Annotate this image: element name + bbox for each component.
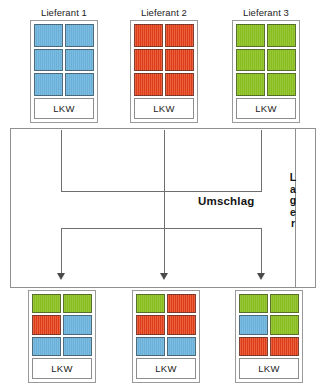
cargo-cell xyxy=(136,315,165,334)
outbound-arrow-2 xyxy=(160,273,168,280)
cargo-cell xyxy=(165,73,194,96)
outbound-line-3 xyxy=(261,228,262,274)
cargo-cell xyxy=(236,73,265,96)
cargo-cell xyxy=(270,337,299,356)
hub-title: Umschlag xyxy=(198,195,255,207)
cargo-cell xyxy=(167,337,196,356)
vehicle-label: LKW xyxy=(255,103,277,114)
outbound-arrow-1 xyxy=(57,273,65,280)
supplier-label-2: Lieferant 2 xyxy=(122,7,206,18)
outbound-line-1 xyxy=(61,228,62,274)
cargo-grid xyxy=(136,294,196,356)
vehicle-box: LKW xyxy=(32,358,92,379)
cargo-cell xyxy=(65,73,94,96)
cargo-grid xyxy=(236,24,296,96)
storage-label-vertical: L a g e r xyxy=(286,172,300,230)
cargo-cell xyxy=(239,315,268,334)
cargo-cell xyxy=(267,73,296,96)
cargo-cell xyxy=(165,49,194,72)
vehicle-box: LKW xyxy=(136,358,196,379)
vehicle-box: LKW xyxy=(236,98,296,119)
outbound-truck-3[interactable]: LKW xyxy=(235,290,303,383)
cargo-cell xyxy=(63,337,92,356)
outbound-truck-1[interactable]: LKW xyxy=(28,290,96,383)
cargo-cell xyxy=(32,337,61,356)
cargo-cell xyxy=(270,315,299,334)
inbound-truck-1[interactable]: LKW xyxy=(30,20,98,123)
storage-letter: L xyxy=(286,172,300,184)
cargo-cell xyxy=(65,49,94,72)
inbound-line-1 xyxy=(61,130,62,191)
storage-letter: g xyxy=(286,195,300,207)
inbound-line-2 xyxy=(164,130,165,228)
cargo-cell xyxy=(63,315,92,334)
cargo-cell xyxy=(267,24,296,47)
cargo-cell xyxy=(134,49,163,72)
cargo-grid xyxy=(134,24,194,96)
vehicle-label: LKW xyxy=(155,363,177,374)
inbound-collector-line xyxy=(61,191,262,192)
vehicle-label: LKW xyxy=(258,363,280,374)
supplier-label-3: Lieferant 3 xyxy=(222,7,310,18)
cargo-cell xyxy=(34,73,63,96)
inbound-truck-2[interactable]: LKW xyxy=(130,20,198,123)
cargo-cell xyxy=(136,337,165,356)
inbound-line-3 xyxy=(261,130,262,191)
cargo-cell xyxy=(134,73,163,96)
cargo-cell xyxy=(63,294,92,313)
cargo-grid xyxy=(34,24,94,96)
outbound-distributor-line xyxy=(61,228,262,229)
cargo-cell xyxy=(134,24,163,47)
cargo-cell xyxy=(165,24,194,47)
supplier-label-1: Lieferant 1 xyxy=(22,7,106,18)
vehicle-box: LKW xyxy=(34,98,94,119)
outbound-truck-2[interactable]: LKW xyxy=(132,290,200,383)
vehicle-box: LKW xyxy=(134,98,194,119)
cargo-cell xyxy=(236,49,265,72)
vehicle-box: LKW xyxy=(239,358,299,379)
outbound-line-2 xyxy=(164,228,165,274)
cargo-cell xyxy=(239,294,268,313)
cargo-cell xyxy=(34,24,63,47)
hub-box xyxy=(10,128,316,288)
cargo-cell xyxy=(136,294,165,313)
cargo-cell xyxy=(32,315,61,334)
vehicle-label: LKW xyxy=(153,103,175,114)
inbound-truck-3[interactable]: LKW xyxy=(232,20,300,123)
cargo-cell xyxy=(34,49,63,72)
cargo-cell xyxy=(236,24,265,47)
cargo-grid xyxy=(32,294,92,356)
cargo-grid xyxy=(239,294,299,356)
cargo-cell xyxy=(65,24,94,47)
cargo-cell xyxy=(167,294,196,313)
storage-letter: r xyxy=(286,218,300,230)
cargo-cell xyxy=(270,294,299,313)
cargo-cell xyxy=(267,49,296,72)
vehicle-label: LKW xyxy=(51,363,73,374)
vehicle-label: LKW xyxy=(53,103,75,114)
cargo-cell xyxy=(167,315,196,334)
diagram-canvas: Lieferant 1 Lieferant 2 Lieferant 3 LKW … xyxy=(0,0,326,383)
cargo-cell xyxy=(239,337,268,356)
cargo-cell xyxy=(32,294,61,313)
outbound-arrow-3 xyxy=(257,273,265,280)
